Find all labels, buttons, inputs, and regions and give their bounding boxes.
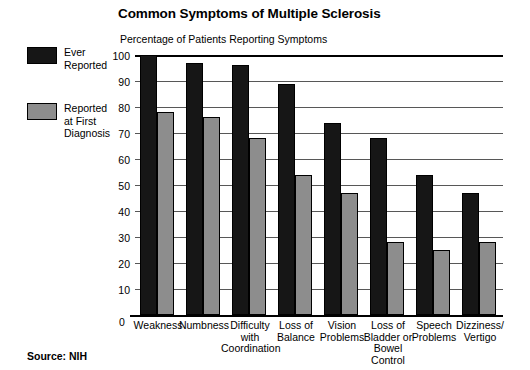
y-axis-tick-40: 40 xyxy=(118,206,130,217)
bar-group xyxy=(324,55,358,315)
y-axis-tick-70: 70 xyxy=(118,128,130,139)
bar xyxy=(249,138,266,315)
y-axis-tick-80: 80 xyxy=(118,102,130,113)
legend-item-ever-reported: Ever Reported xyxy=(27,46,107,71)
bar-group xyxy=(278,55,312,315)
y-axis-tick-0: 0 xyxy=(119,317,125,328)
bar xyxy=(278,84,295,315)
bar xyxy=(433,250,450,315)
bar xyxy=(186,63,203,315)
bar xyxy=(232,65,249,315)
bar xyxy=(370,138,387,315)
bar-group xyxy=(416,55,450,315)
x-axis-baseline xyxy=(130,315,503,317)
plot-area: 0 102030405060708090100 xyxy=(135,55,503,315)
bar-group xyxy=(370,55,404,315)
y-axis-tick-20: 20 xyxy=(118,258,130,269)
bar-group xyxy=(186,55,220,315)
y-axis-tick-50: 50 xyxy=(118,180,130,191)
legend-label-first-diagnosis: Reported at First Diagnosis xyxy=(64,102,110,140)
legend-swatch-first-diagnosis xyxy=(27,103,57,120)
bar xyxy=(295,175,312,315)
y-axis-tick-10: 10 xyxy=(118,284,130,295)
bar xyxy=(462,193,479,315)
bar xyxy=(140,55,157,315)
bar-group xyxy=(232,55,266,315)
legend-item-first-diagnosis: Reported at First Diagnosis xyxy=(27,102,110,140)
legend-swatch-ever-reported xyxy=(27,47,57,64)
chart-subtitle: Percentage of Patients Reporting Symptom… xyxy=(120,33,327,45)
bar xyxy=(387,242,404,315)
x-axis-category-label: Dizziness/ Vertigo xyxy=(451,320,509,343)
bar xyxy=(324,123,341,315)
bar-group xyxy=(140,55,174,315)
bar xyxy=(203,117,220,315)
bar xyxy=(157,112,174,315)
bar xyxy=(341,193,358,315)
source-note: Source: NIH xyxy=(27,350,87,362)
y-axis-tick-60: 60 xyxy=(118,154,130,165)
bar-group xyxy=(462,55,496,315)
y-axis-tick-90: 90 xyxy=(118,76,130,87)
bar xyxy=(416,175,433,315)
bar xyxy=(479,242,496,315)
chart-page: Common Symptoms of Multiple Sclerosis Pe… xyxy=(0,0,530,370)
y-axis-tick-30: 30 xyxy=(118,232,130,243)
y-axis-tick-100: 100 xyxy=(112,51,130,62)
page-title: Common Symptoms of Multiple Sclerosis xyxy=(118,6,381,21)
legend-label-ever-reported: Ever Reported xyxy=(64,46,107,71)
